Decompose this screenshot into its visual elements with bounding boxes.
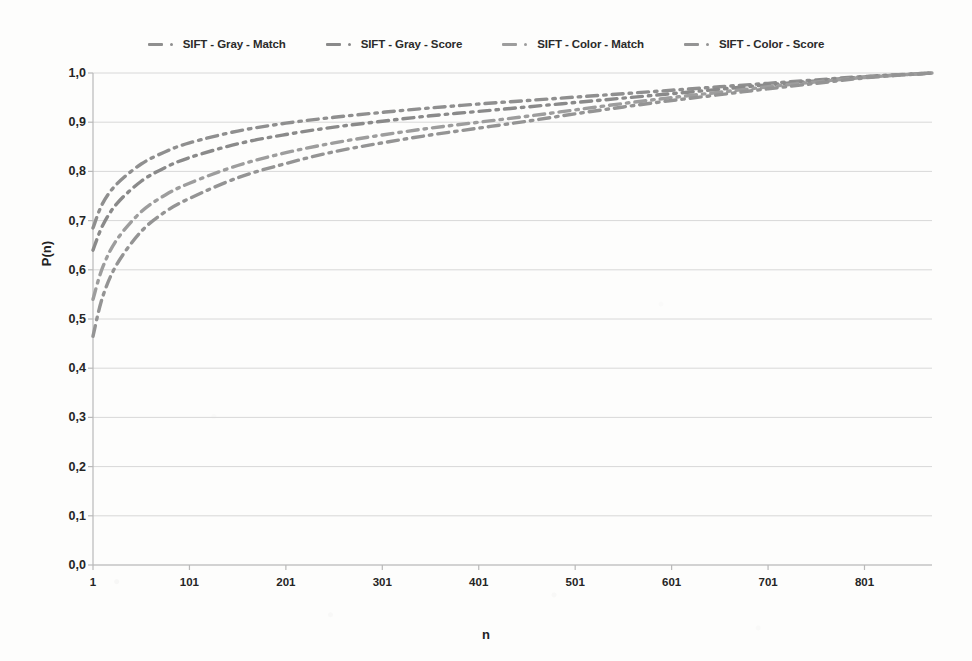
x-tick-label: 301	[373, 576, 392, 588]
y-tick-label: 0,9	[40, 115, 86, 129]
x-tick-label: 501	[566, 576, 585, 588]
x-tick-label: 601	[662, 576, 681, 588]
y-tick-label: 1,0	[40, 66, 86, 80]
x-tick-label: 201	[276, 576, 295, 588]
y-tick-label: 0,3	[40, 410, 86, 424]
y-tick-label: 0,2	[40, 460, 86, 474]
x-tick-label: 701	[759, 576, 778, 588]
x-tick-label: 401	[469, 576, 488, 588]
axis-tickmarks	[88, 73, 864, 570]
y-axis-tick-labels: 0,00,10,20,30,40,50,60,70,80,91,0	[38, 0, 86, 661]
data-series-layer	[93, 73, 932, 336]
y-tick-label: 0,5	[40, 312, 86, 326]
y-tick-label: 0,0	[40, 558, 86, 572]
series-line-4	[93, 73, 932, 336]
series-line-2	[93, 73, 932, 250]
cmc-chart: SIFT - Gray - Match SIFT - Gray - Score …	[0, 0, 972, 661]
y-tick-label: 0,7	[40, 214, 86, 228]
x-axis-title: n	[0, 627, 972, 642]
y-tick-label: 0,8	[40, 164, 86, 178]
gridlines	[93, 73, 932, 565]
y-tick-label: 0,1	[40, 509, 86, 523]
y-axis-title: P(n)	[39, 241, 54, 266]
x-tick-label: 801	[855, 576, 874, 588]
x-tick-label: 1	[90, 576, 96, 588]
x-tick-label: 101	[180, 576, 199, 588]
y-tick-label: 0,4	[40, 361, 86, 375]
plot-area	[0, 0, 972, 661]
